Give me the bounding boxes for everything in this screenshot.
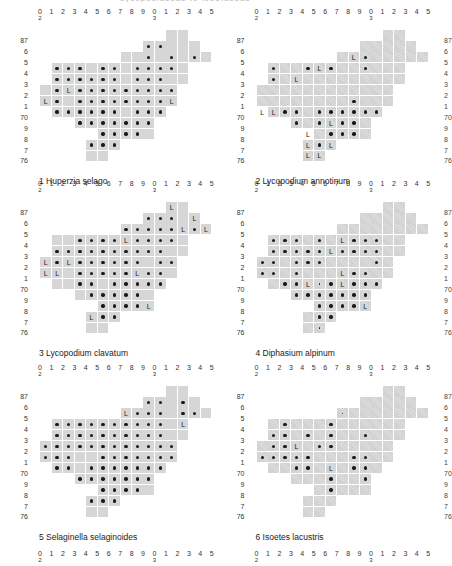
record-dot-marker (159, 228, 162, 231)
record-dot-marker (124, 272, 127, 275)
distribution-map-1: 021234567890312345876543217098776LLL1 Hu… (0, 8, 225, 188)
record-dot-marker (159, 423, 162, 426)
record-dot-marker (352, 121, 355, 124)
record-dot-marker (78, 78, 81, 81)
x-axis-sublabel: 3 (367, 187, 375, 193)
grid-square (326, 452, 337, 462)
grid-square (349, 430, 360, 440)
grid-square (63, 235, 74, 245)
distribution-map-4: 021234567890312345876543217098776LLLLLL4… (225, 180, 450, 360)
grid-square (143, 485, 154, 495)
bottom-x-axis-label: 02 (253, 550, 261, 563)
y-axis-label: 2 (12, 264, 28, 272)
grid-square (394, 52, 405, 62)
grid-square (337, 224, 348, 234)
record-dot-marker (78, 100, 81, 103)
record-dot-marker (136, 78, 139, 81)
x-axis-label: 6 (321, 180, 329, 187)
grid-square (394, 30, 405, 40)
x-axis-label: 5 (424, 180, 432, 187)
x-axis-label: 1 (162, 180, 170, 187)
grid-square (326, 85, 337, 95)
record-dot-marker (78, 67, 81, 70)
x-axis-label: 9 (356, 180, 364, 187)
record-dot-marker (341, 250, 344, 253)
record-dot-marker (101, 304, 104, 307)
x-axis-label: 4 (413, 8, 421, 15)
grid-square (406, 408, 417, 418)
record-dot-marker (159, 272, 162, 275)
record-dot-marker (364, 434, 367, 437)
x-axis-label: 02 (36, 180, 44, 193)
y-axis-label: 6 (229, 48, 245, 56)
cut-off-y-axis-label: 3 (444, 253, 448, 261)
grid-square (371, 74, 382, 84)
grid-square (121, 74, 132, 84)
x-axis-label: 2 (390, 364, 398, 371)
cut-off-y-axis-label: 87 (444, 393, 452, 401)
record-dot-marker (318, 445, 321, 448)
record-dot-marker (124, 121, 127, 124)
y-axis-label: 5 (229, 231, 245, 239)
x-axis-label: 02 (253, 180, 261, 193)
grid-square (360, 224, 371, 234)
record-dot-marker (261, 272, 264, 275)
grid-square (201, 52, 212, 62)
record-dot-marker (113, 143, 116, 146)
grid-square (371, 430, 382, 440)
grid-square (166, 430, 177, 440)
grid-square (383, 202, 394, 212)
y-axis-label: 76 (12, 157, 28, 165)
x-axis-label: 2 (59, 364, 67, 371)
x-axis-label: 5 (93, 8, 101, 15)
record-dot-marker (78, 261, 81, 264)
grid-square (417, 224, 428, 234)
bottom-x-axis-label: 5 (93, 550, 101, 557)
x-axis-sublabel: 2 (36, 187, 44, 193)
grid-square (394, 235, 405, 245)
x-axis-label: 02 (253, 8, 261, 21)
L-record-marker: L (168, 98, 176, 105)
record-dot-marker (306, 261, 309, 264)
grid-square (349, 63, 360, 73)
x-axis-label: 6 (105, 8, 113, 15)
grid-square (337, 96, 348, 106)
grid-square (314, 496, 325, 506)
L-record-marker: L (327, 120, 335, 127)
record-dot-marker (159, 67, 162, 70)
x-axis-label: 4 (82, 364, 90, 371)
L-record-marker: L (88, 314, 96, 321)
x-axis-sublabel: 3 (151, 15, 159, 21)
grid-square (371, 268, 382, 278)
map-caption: 6 Isoetes lacustris (256, 532, 324, 542)
grid-square (314, 74, 325, 84)
record-dot-marker (90, 110, 93, 113)
grid-square (303, 118, 314, 128)
grid-square (303, 441, 314, 451)
grid-square (371, 52, 382, 62)
cut-off-y-axis-label: 8 (444, 492, 448, 500)
record-dot-marker (329, 477, 332, 480)
record-dot-marker (113, 499, 116, 502)
grid-square (383, 96, 394, 106)
y-axis-label: 1 (12, 103, 28, 111)
grid-square (166, 41, 177, 51)
grid-square (75, 290, 86, 300)
x-axis-label: 3 (401, 364, 409, 371)
grid-square (314, 463, 325, 473)
record-dot-marker (136, 423, 139, 426)
x-axis-label: 02 (36, 364, 44, 377)
record-dot-marker (55, 456, 58, 459)
record-dot-marker (90, 143, 93, 146)
grid-square (383, 63, 394, 73)
grid-square (143, 290, 154, 300)
grid-square (52, 279, 63, 289)
record-dot-marker (136, 466, 139, 469)
x-axis-label: 4 (413, 364, 421, 371)
record-dot-marker (136, 456, 139, 459)
map-caption: 3 Lycopodium clavatum (39, 348, 128, 358)
cut-off-y-axis-label: 3 (444, 81, 448, 89)
grid-square (166, 74, 177, 84)
record-dot-marker (159, 261, 162, 264)
grid-square (349, 474, 360, 484)
